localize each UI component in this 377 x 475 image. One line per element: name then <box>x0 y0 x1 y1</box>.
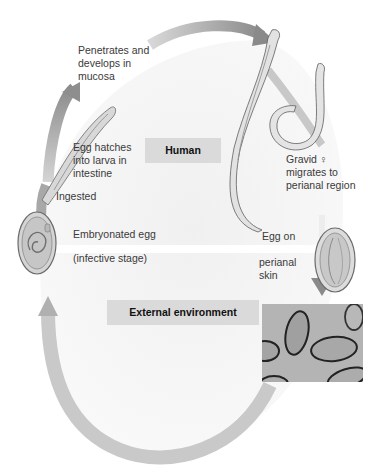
arrow-top <box>150 24 276 46</box>
external-environment-label: External environment <box>107 300 259 325</box>
stage-penetrates: Penetrates and develops in mucosa <box>78 44 149 83</box>
stage-egg-on: Egg on <box>262 230 295 243</box>
stage-ingested: Ingested <box>56 190 96 203</box>
stage-embryonated-egg: Embryonated egg <box>73 228 156 241</box>
stage-infective: (infective stage) <box>73 252 147 265</box>
embryonated-egg-illustration <box>18 212 56 274</box>
human-section-label: Human <box>145 138 221 163</box>
stage-perianal-skin: perianal skin <box>259 256 296 282</box>
egg-micrograph <box>262 304 363 382</box>
perianal-egg-illustration <box>315 228 355 292</box>
stage-gravid: Gravid ♀ migrates to perianal region <box>286 153 355 192</box>
life-cycle-diagram <box>0 0 377 475</box>
stage-hatches: Egg hatches into larva in intestine <box>73 141 131 180</box>
